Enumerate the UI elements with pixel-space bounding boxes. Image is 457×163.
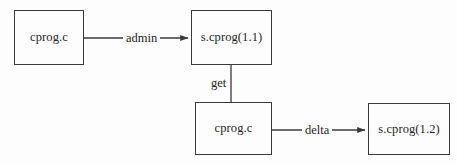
node-label: cprog.c [215, 122, 253, 135]
edge-label-admin: admin [123, 32, 160, 45]
node-scprog-11[interactable]: s.cprog(1.1) [191, 10, 272, 65]
node-label: s.cprog(1.1) [201, 31, 263, 44]
edge-label-delta: delta [302, 124, 332, 137]
node-scprog-12[interactable]: s.cprog(1.2) [368, 103, 450, 155]
node-label: cprog.c [30, 31, 68, 44]
diagram-canvas: cprog.c s.cprog(1.1) cprog.c s.cprog(1.2… [0, 0, 457, 163]
node-cprog-working[interactable]: cprog.c [195, 102, 272, 155]
node-label: s.cprog(1.2) [378, 123, 440, 136]
node-cprog-source[interactable]: cprog.c [14, 10, 84, 65]
edge-label-get: get [208, 77, 229, 90]
